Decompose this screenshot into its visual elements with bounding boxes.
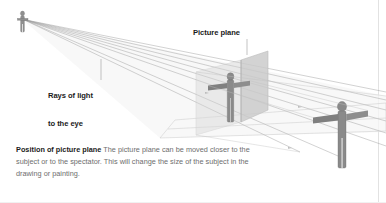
subject-head <box>337 101 346 111</box>
rays-of-light-label-line2: to the eye <box>48 119 93 128</box>
picture-plane-label: Picture plane <box>193 28 240 37</box>
figure-caption: Position of picture plane The picture pl… <box>16 144 259 181</box>
spectator-leg-gap <box>22 24 23 32</box>
picture-plane-left-face <box>196 60 241 135</box>
projected-subject-leg-gap <box>230 98 231 122</box>
perspective-diagram-figure: Picture plane Rays of light to the eye P… <box>0 0 386 203</box>
rays-of-light-label: Rays of light to the eye <box>48 72 93 147</box>
rays-of-light-label-line1: Rays of light <box>48 91 93 100</box>
spectator-head <box>20 11 24 16</box>
subject-leg-gap <box>342 138 343 168</box>
spectator-arms <box>17 18 28 20</box>
caption-lead: Position of picture plane <box>16 145 101 154</box>
picture-plane-surface <box>241 51 268 122</box>
